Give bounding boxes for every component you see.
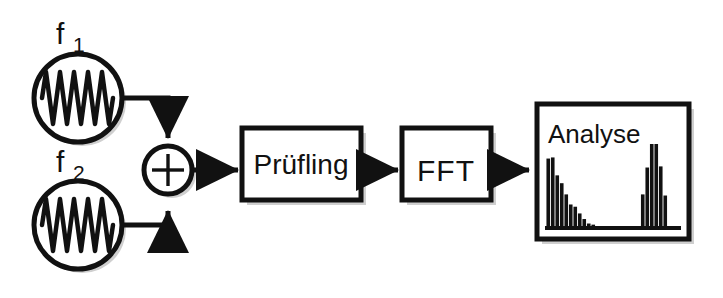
conn-f1-adder — [122, 98, 168, 138]
source-2-label: f — [56, 145, 65, 178]
block-fft[interactable]: FFT — [402, 128, 491, 200]
summing-junction[interactable] — [144, 146, 192, 194]
spectrum-bar — [663, 196, 667, 228]
block-analyse[interactable]: Analyse — [537, 104, 689, 239]
spectrum-bar — [546, 159, 550, 228]
spectrum-bar — [551, 157, 555, 228]
spectrum-bar — [645, 168, 649, 228]
spectrum-bar — [650, 144, 654, 228]
spectrum-bar — [569, 204, 573, 228]
spectrum-bar — [578, 213, 582, 228]
diagram-canvas: f 1 f 2 Prüfling — [0, 0, 723, 298]
block-diagram: f 1 f 2 Prüfling — [0, 0, 723, 298]
source-2-group[interactable]: f 2 — [34, 145, 122, 269]
spectrum-bar — [654, 144, 658, 228]
block-analyse-label: Analyse — [548, 119, 641, 149]
block-pruefling[interactable]: Prüfling — [242, 128, 361, 200]
conn-f2-adder — [122, 211, 168, 225]
source-1-label: f — [56, 17, 65, 50]
spectrum-bar — [573, 207, 577, 228]
block-fft-label: FFT — [417, 154, 475, 187]
source-1-group[interactable]: f 1 — [34, 17, 122, 142]
spectrum-bar — [560, 183, 564, 228]
source-1-sublabel: 1 — [73, 33, 85, 56]
block-pruefling-label: Prüfling — [254, 149, 349, 180]
spectrum-bar — [564, 194, 568, 228]
spectrum-bar — [641, 194, 645, 228]
spectrum-bar — [659, 166, 663, 228]
source-2-sublabel: 2 — [73, 161, 85, 184]
spectrum-bar — [555, 175, 559, 228]
